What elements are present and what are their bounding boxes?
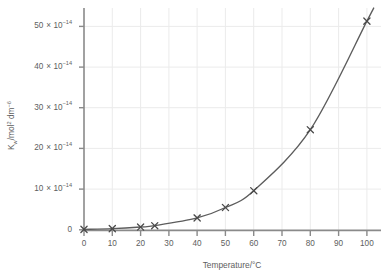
xtick-label-0: 0	[82, 239, 87, 248]
xtick-label-10: 10	[108, 239, 118, 248]
ytick-label-40: 40× 10−14	[34, 60, 72, 71]
svg-text:Kw/mol2 dm−6: Kw/mol2 dm−6	[6, 101, 18, 150]
xtick-label-70: 70	[277, 239, 287, 248]
y-axis-title: Kw/mol2 dm−6	[6, 101, 18, 150]
ytick-label-50: 50× 10−14	[34, 19, 72, 30]
y-axis-title-units-mid: dm	[6, 107, 16, 121]
xtick-label-20: 20	[136, 239, 146, 248]
ytick-label-10: 10× 10−14	[34, 182, 72, 193]
plot-background	[84, 8, 381, 230]
xtick-label-30: 30	[164, 239, 174, 248]
xtick-label-100: 100	[360, 239, 374, 248]
xtick-label-90: 90	[334, 239, 344, 248]
y-axis-tick-labels: 50× 10−14 40× 10−14 30× 10−14 20× 10−14 …	[34, 19, 72, 234]
ytick-label-30: 30× 10−14	[34, 101, 72, 112]
ytick-label-20: 20× 10−14	[34, 141, 72, 152]
x-axis-title: Temperature/°C	[203, 260, 262, 270]
chart-container: 50× 10−14 40× 10−14 30× 10−14 20× 10−14 …	[0, 0, 387, 276]
xtick-label-60: 60	[249, 239, 259, 248]
x-axis-tick-labels: 0 10 20 30 40 50 60 70 80 90 100	[82, 239, 374, 248]
kw-temperature-line-chart: 50× 10−14 40× 10−14 30× 10−14 20× 10−14 …	[0, 0, 387, 276]
xtick-label-80: 80	[306, 239, 316, 248]
y-axis-title-units-main: /mol	[6, 124, 16, 140]
xtick-label-50: 50	[221, 239, 231, 248]
y-axis-title-sup2: −6	[6, 101, 12, 107]
x-axis-ticks	[84, 230, 367, 236]
xtick-label-40: 40	[193, 239, 203, 248]
ytick-label-0: 0	[67, 225, 72, 234]
